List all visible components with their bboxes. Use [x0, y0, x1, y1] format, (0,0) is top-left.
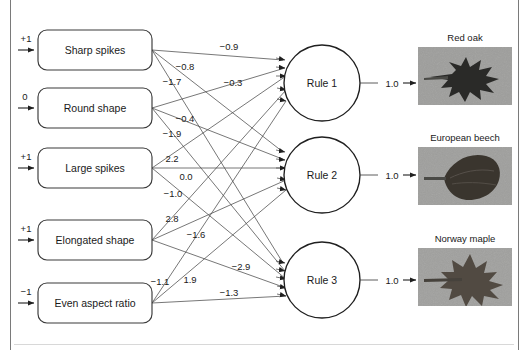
input-node-4[interactable]: −1 Even aspect ratio: [18, 283, 152, 323]
input-label-4: Even aspect ratio: [54, 297, 135, 309]
rule-output-0: 1.0: [385, 78, 398, 89]
input-node-0[interactable]: +1 Sharp spikes: [18, 30, 152, 70]
weight-label-8: −1.0: [164, 188, 183, 199]
species-photo-1: European beech: [418, 132, 512, 205]
beech-leaf-icon: [418, 147, 512, 205]
weight-label-0: −0.9: [220, 41, 239, 52]
species-photo-0: Red oak: [418, 32, 512, 105]
input-value-1: 0: [22, 91, 27, 102]
species-caption-1: European beech: [430, 132, 500, 143]
input-node-3[interactable]: +1 Elongated shape: [18, 220, 152, 260]
species-photo-2: Norway maple: [418, 233, 512, 307]
weight-label-3: −0.3: [224, 77, 243, 88]
rule-output-2: 1.0: [385, 275, 398, 286]
weight-label-14: −1.3: [220, 287, 239, 298]
weight-label-11: −2.9: [232, 261, 251, 272]
input-node-2[interactable]: +1 Large spikes: [18, 148, 152, 188]
weight-label-4: −0.4: [176, 113, 195, 124]
input-value-2: +1: [21, 151, 32, 162]
connection-lines: [152, 50, 286, 303]
oak-leaf-icon: [418, 47, 512, 105]
rule-label-0: Rule 1: [307, 77, 338, 89]
input-label-1: Round shape: [64, 102, 127, 114]
maple-leaf-icon: [418, 248, 512, 307]
rule-node-1[interactable]: Rule 2 1.0: [284, 137, 416, 213]
input-value-0: +1: [21, 33, 32, 44]
weight-labels: −0.9 −0.8 −1.7 −0.3 −0.4 −1.9 2.2 0.0 −1…: [151, 41, 251, 298]
weight-label-10: −1.6: [187, 229, 206, 240]
input-label-3: Elongated shape: [56, 234, 135, 246]
rule-node-2[interactable]: Rule 3 1.0: [284, 242, 416, 318]
input-label-0: Sharp spikes: [65, 44, 126, 56]
weight-label-6: 2.2: [165, 153, 178, 164]
figure-container: +1 Sharp spikes 0 Round shape +1 Large s…: [0, 0, 525, 350]
rule-label-1: Rule 2: [307, 169, 338, 181]
weight-label-9: 2.8: [165, 213, 178, 224]
species-caption-2: Norway maple: [435, 233, 496, 244]
weight-label-1: −0.8: [176, 61, 195, 72]
weight-label-13: −1.1: [151, 276, 170, 287]
input-value-4: −1: [21, 286, 32, 297]
species-caption-0: Red oak: [447, 32, 483, 43]
input-value-3: +1: [21, 223, 32, 234]
weight-label-7: 0.0: [179, 171, 192, 182]
input-node-1[interactable]: 0 Round shape: [18, 88, 152, 128]
rule-label-2: Rule 3: [307, 274, 338, 286]
weight-label-2: −1.7: [163, 76, 182, 87]
weight-label-5: −1.9: [163, 128, 182, 139]
rule-output-1: 1.0: [385, 170, 398, 181]
rule-node-0[interactable]: Rule 1 1.0: [284, 45, 416, 121]
weight-label-12: 1.9: [183, 274, 196, 285]
neural-network-diagram: +1 Sharp spikes 0 Round shape +1 Large s…: [0, 0, 525, 350]
input-label-2: Large spikes: [65, 162, 125, 174]
